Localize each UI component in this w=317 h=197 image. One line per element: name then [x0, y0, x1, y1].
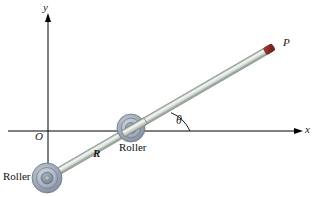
roller-pin: [45, 176, 49, 180]
rod-length-label: R: [93, 148, 100, 159]
roller-lower-left[interactable]: [32, 163, 62, 193]
roller-label-on-x-axis: Roller: [119, 142, 147, 153]
x-axis-arrowhead: [294, 128, 303, 134]
origin-label: O: [35, 131, 43, 142]
y-axis-arrowhead: [45, 13, 51, 22]
roller-label-lower-left: Roller: [3, 171, 31, 182]
x-axis-label: x: [305, 124, 310, 135]
rod-shadow-line: [51, 52, 270, 179]
y-axis-label: y: [43, 2, 48, 13]
rod-highlight: [49, 48, 268, 175]
figure-canvas: y x O P θ R Roller Roller: [0, 0, 317, 197]
point-p-label: P: [283, 37, 290, 48]
rod-group: [45, 43, 275, 181]
theta-angle-label: θ: [176, 114, 182, 126]
diagram-svg: [0, 0, 317, 197]
